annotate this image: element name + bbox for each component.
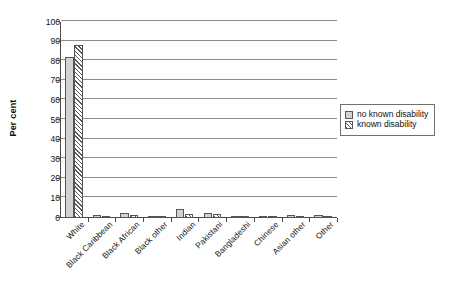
y-tick-label: 10 bbox=[20, 194, 60, 203]
x-category-label: White bbox=[65, 220, 87, 242]
bar bbox=[120, 213, 129, 218]
bar bbox=[65, 57, 74, 218]
bar bbox=[268, 216, 277, 218]
legend: no known disabilityknown disability bbox=[340, 104, 435, 136]
bar bbox=[314, 215, 323, 218]
y-axis-ticks: 0102030405060708090100 bbox=[12, 22, 60, 218]
x-axis-labels: WhiteBlack CaribbeanBlack AfricanBlack o… bbox=[60, 220, 337, 290]
bar bbox=[296, 216, 305, 218]
legend-item[interactable]: known disability bbox=[345, 120, 428, 129]
y-tick-label: 90 bbox=[20, 37, 60, 46]
bar-group bbox=[199, 22, 227, 218]
bar bbox=[74, 45, 83, 218]
bar bbox=[240, 216, 249, 218]
bar-group bbox=[143, 22, 171, 218]
bar bbox=[157, 216, 166, 218]
bars-layer bbox=[60, 22, 337, 218]
bar bbox=[287, 215, 296, 218]
y-tick-label: 40 bbox=[20, 135, 60, 144]
bar bbox=[213, 214, 222, 218]
bar bbox=[93, 215, 102, 218]
legend-item[interactable]: no known disability bbox=[345, 110, 428, 119]
x-tick-mark bbox=[337, 218, 338, 222]
legend-label: no known disability bbox=[357, 110, 428, 119]
y-tick-label: 60 bbox=[20, 96, 60, 105]
bar bbox=[130, 215, 139, 218]
bar bbox=[148, 216, 157, 218]
bar-group bbox=[171, 22, 199, 218]
bar bbox=[231, 216, 240, 218]
bar bbox=[102, 216, 111, 218]
y-tick-label: 0 bbox=[20, 214, 60, 223]
bar-group bbox=[60, 22, 88, 218]
bar-group bbox=[226, 22, 254, 218]
legend-label: known disability bbox=[357, 120, 417, 129]
bar-group bbox=[88, 22, 116, 218]
bar bbox=[204, 213, 213, 218]
legend-swatch-icon bbox=[345, 121, 353, 129]
bar bbox=[176, 209, 185, 218]
bar-group bbox=[115, 22, 143, 218]
bar bbox=[259, 216, 268, 218]
y-tick-label: 20 bbox=[20, 174, 60, 183]
x-category-label: Other bbox=[314, 220, 335, 241]
bar-group bbox=[254, 22, 282, 218]
y-tick-label: 100 bbox=[20, 18, 60, 27]
y-tick-label: 30 bbox=[20, 155, 60, 164]
y-tick-label: 80 bbox=[20, 57, 60, 66]
x-category-label: Indian bbox=[174, 220, 197, 243]
bar bbox=[323, 216, 332, 218]
gridline bbox=[61, 20, 337, 21]
bar bbox=[185, 214, 194, 218]
bar-group bbox=[309, 22, 337, 218]
bar-group bbox=[282, 22, 310, 218]
y-tick-label: 50 bbox=[20, 116, 60, 125]
legend-swatch-icon bbox=[345, 111, 353, 119]
y-tick-label: 70 bbox=[20, 76, 60, 85]
bar-chart: Per cent 0102030405060708090100 WhiteBla… bbox=[0, 0, 463, 294]
